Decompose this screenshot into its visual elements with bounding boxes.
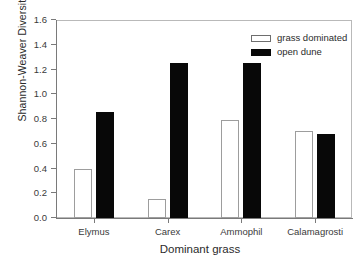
legend-label: open dune [277,46,322,58]
y-axis-tick: 1.2 [0,64,56,76]
y-axis-tick-mark [51,168,56,169]
y-axis-tick: 0.0 [0,212,56,224]
x-axis-title: Dominant grass [50,243,350,255]
bar-elymus-open-dune [96,112,114,218]
y-axis-tick-label: 0.2 [34,187,47,199]
y-axis-tick-mark [51,93,56,94]
bar-elymus-grass-dominated [74,169,92,219]
bar-calamagrosti-grass-dominated [295,131,313,218]
y-axis-tick-mark [51,19,56,20]
x-axis-spine [56,218,353,219]
y-axis-tick-label: 0.4 [34,163,47,175]
y-axis-tick-label: 0.0 [34,212,47,224]
x-axis-tick-mark [168,219,169,223]
legend-item: grass dominated [251,32,347,44]
y-axis-tick-label: 1.4 [34,39,47,51]
y-axis-tick-label: 0.8 [34,113,47,125]
x-axis-tick-mark [315,219,316,223]
y-axis-tick-mark [51,143,56,144]
y-axis-tick-label: 1.2 [34,64,47,76]
y-axis-tick-mark [51,44,56,45]
chart-legend: grass dominatedopen dune [251,32,347,60]
x-axis-category-label: Calamagrosti [270,226,360,237]
y-axis-tick: 0.2 [0,187,56,199]
legend-swatch-grass-dominated [251,35,271,42]
y-axis-tick: 1.4 [0,39,56,51]
y-axis-tick-mark [51,192,56,193]
y-axis-tick-label: 1.0 [34,88,47,100]
bar-carex-open-dune [170,63,188,218]
bar-carex-grass-dominated [148,199,166,218]
legend-swatch-open-dune [251,49,271,56]
x-axis-tick-mark [241,219,242,223]
y-axis-tick: 1.6 [0,14,56,26]
y-axis-tick: 1.0 [0,88,56,100]
bar-ammophil-open-dune [243,63,261,218]
bar-ammophil-grass-dominated [221,120,239,218]
legend-label: grass dominated [277,32,347,44]
bar-calamagrosti-open-dune [317,134,335,218]
y-axis-tick-mark [51,217,56,218]
legend-item: open dune [251,46,347,58]
y-axis-tick-mark [51,118,56,119]
y-axis-tick-label: 1.6 [34,14,47,26]
x-axis-tick-mark [94,219,95,223]
y-axis-tick-mark [51,69,56,70]
y-axis-tick-label: 0.6 [34,138,47,150]
y-axis-tick: 0.8 [0,113,56,125]
y-axis-tick: 0.4 [0,163,56,175]
bar-chart-figure: Shannon-Weaver Diversity 0.00.20.40.60.8… [0,0,364,271]
y-axis-tick: 0.6 [0,138,56,150]
